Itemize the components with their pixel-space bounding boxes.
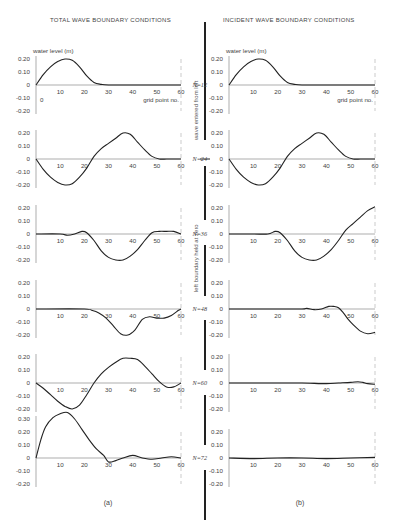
x-tick-label: 40 <box>323 237 330 244</box>
y-tick-label: -0.20 <box>209 405 224 412</box>
panel-n-48: 0.200.100-0.10-0.20102030405060N=48 <box>192 279 379 338</box>
y-tick-label: -0.20 <box>16 181 31 188</box>
y-tick-label: 0.20 <box>18 129 31 136</box>
x-tick-label: 30 <box>105 386 112 393</box>
y-tick-label: 0.20 <box>211 428 224 435</box>
x-tick-label: 30 <box>105 88 112 95</box>
panel-n-72: 0.200.100-0.10-0.20102030405060N=72 <box>192 428 379 487</box>
x-tick-label: 10 <box>250 88 257 95</box>
x-tick-label: 30 <box>105 237 112 244</box>
x-tick-label: 10 <box>250 461 257 468</box>
panel-n-12: 0.200.100-0.10-0.20102030405060water lev… <box>16 47 185 114</box>
y-tick-label: 0.10 <box>18 441 31 448</box>
x-tick-label: 20 <box>81 312 88 319</box>
y-tick-label: 0.10 <box>211 441 224 448</box>
x-tick-label: 40 <box>323 88 330 95</box>
x-tick-label: 20 <box>81 237 88 244</box>
x-axis-label: grid point no. <box>143 96 179 103</box>
x-tick-label: 50 <box>153 237 160 244</box>
y-tick-label: 0 <box>220 155 224 162</box>
x-tick-label: 50 <box>153 386 160 393</box>
x-tick-label: 50 <box>347 162 354 169</box>
x-tick-label: 10 <box>57 162 64 169</box>
x-tick-label: 30 <box>299 312 306 319</box>
y-tick-label: 0.20 <box>211 129 224 136</box>
panel-n-12: 0.200.100-0.10-0.20102030405060water lev… <box>192 47 379 114</box>
x-tick-label: 40 <box>323 461 330 468</box>
water-level-curve <box>229 59 375 85</box>
panel-n-24: 0.200.100-0.10-0.20102030405060 <box>16 129 185 188</box>
x-tick-label: 40 <box>323 162 330 169</box>
x-tick-label: 40 <box>323 386 330 393</box>
origin-label: 0 <box>40 96 44 103</box>
x-tick-label: 30 <box>299 237 306 244</box>
y-tick-label: 0 <box>220 305 224 312</box>
y-tick-label: 0.10 <box>211 68 224 75</box>
x-tick-label: 10 <box>250 237 257 244</box>
x-tick-label: 50 <box>347 237 354 244</box>
y-tick-label: -0.10 <box>16 392 31 399</box>
y-tick-label: 0.10 <box>211 142 224 149</box>
y-tick-label: 0 <box>220 230 224 237</box>
y-tick-label: 0.20 <box>211 204 224 211</box>
panel-n-72: 0.300.200.100-0.10-0.20102030405060 <box>16 412 185 487</box>
y-tick-label: 0 <box>220 81 224 88</box>
y-tick-label: 0.10 <box>18 142 31 149</box>
time-step-label: N=60 <box>192 379 208 386</box>
y-tick-label: -0.10 <box>209 243 224 250</box>
y-tick-label: -0.20 <box>16 405 31 412</box>
x-tick-label: 30 <box>299 162 306 169</box>
x-tick-label: 40 <box>129 162 136 169</box>
y-tick-label: 0 <box>27 454 31 461</box>
x-tick-label: 50 <box>347 386 354 393</box>
water-level-curve <box>229 306 375 334</box>
panel-n-60: 0.200.100-0.10-0.20102030405060N=60 <box>192 353 379 412</box>
x-tick-label: 50 <box>153 88 160 95</box>
x-tick-label: 40 <box>129 386 136 393</box>
x-tick-label: 20 <box>274 237 281 244</box>
panel-n-24: 0.200.100-0.10-0.20102030405060N=24 <box>192 129 379 188</box>
y-tick-label: 0.10 <box>211 366 224 373</box>
y-tick-label: 0 <box>27 379 31 386</box>
x-tick-label: 10 <box>57 312 64 319</box>
x-tick-label: 40 <box>323 312 330 319</box>
x-tick-label: 10 <box>250 386 257 393</box>
time-step-label: N=24 <box>192 155 208 162</box>
y-tick-label: 0.10 <box>18 217 31 224</box>
x-tick-label: 30 <box>299 386 306 393</box>
y-tick-label: 0.10 <box>211 217 224 224</box>
y-tick-label: 0.30 <box>18 415 31 422</box>
time-step-label: N=36 <box>192 230 208 237</box>
x-tick-label: 20 <box>274 461 281 468</box>
water-level-curve <box>36 59 181 85</box>
y-tick-label: 0.20 <box>211 55 224 62</box>
x-tick-label: 20 <box>274 386 281 393</box>
y-tick-label: 0.10 <box>18 292 31 299</box>
y-tick-label: -0.20 <box>209 256 224 263</box>
x-tick-label: 20 <box>81 88 88 95</box>
x-tick-label: 50 <box>153 461 160 468</box>
y-tick-label: -0.10 <box>209 168 224 175</box>
y-tick-label: 0.10 <box>211 292 224 299</box>
y-tick-label: -0.10 <box>16 94 31 101</box>
y-tick-label: -0.10 <box>16 467 31 474</box>
panel-n-60: 0.200.100-0.10-0.20102030405060 <box>16 353 185 412</box>
x-tick-label: 50 <box>347 312 354 319</box>
total-wave-panels: 0.200.100-0.10-0.20102030405060water lev… <box>16 47 185 487</box>
boundary-conditions-figure: wave entered from left left boundary hel… <box>0 0 393 529</box>
panel-n-48: 0.200.100-0.10-0.20102030405060 <box>16 279 185 338</box>
y-tick-label: -0.20 <box>209 181 224 188</box>
x-axis-label: grid point no. <box>337 96 373 103</box>
x-tick-label: 20 <box>274 312 281 319</box>
y-tick-label: 0.10 <box>18 366 31 373</box>
y-tick-label: 0.10 <box>18 68 31 75</box>
y-tick-label: 0.20 <box>18 428 31 435</box>
annotation-wave-entered-from-left: wave entered from left <box>193 80 199 141</box>
y-tick-label: -0.10 <box>209 318 224 325</box>
y-tick-label: -0.20 <box>209 331 224 338</box>
x-tick-label: 40 <box>129 237 136 244</box>
panel-n-36: 0.200.100-0.10-0.20102030405060 <box>16 204 185 263</box>
x-tick-label: 20 <box>274 88 281 95</box>
x-tick-label: 10 <box>250 312 257 319</box>
y-tick-label: 0 <box>27 155 31 162</box>
